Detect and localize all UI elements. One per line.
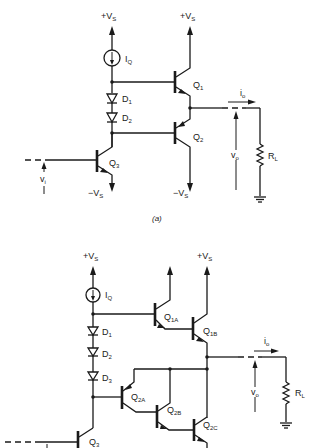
arrow-down-icon <box>109 183 115 192</box>
wire <box>176 34 190 77</box>
arrow-down-icon <box>110 60 114 65</box>
arrow-up-icon <box>253 360 258 368</box>
label-q2c: Q2C <box>203 420 218 431</box>
arrow-right-icon <box>248 100 256 105</box>
label-d2: D2 <box>102 349 113 360</box>
label-q1b: Q1B <box>203 326 217 337</box>
label-vo: vo <box>231 150 240 161</box>
caption-a: (a) <box>152 214 162 223</box>
label-vo: vo <box>251 387 260 398</box>
circuit-diagram: +VS IQ D1 D2 +VS Q1 <box>0 0 316 448</box>
label-q1: Q1 <box>193 80 204 91</box>
label-vi: vi <box>40 174 46 185</box>
arrow-right-icon <box>271 349 279 354</box>
ground-icon <box>280 423 292 428</box>
wire <box>123 403 156 412</box>
diode-d3-icon <box>88 372 98 380</box>
label-io: io <box>240 88 246 99</box>
label-q2b: Q2B <box>167 405 181 416</box>
wire <box>156 274 170 309</box>
emitter-arrow-icon <box>178 121 185 127</box>
label-d1: D1 <box>122 94 133 105</box>
wire <box>194 274 207 323</box>
resistor-rl-icon <box>257 144 263 166</box>
arrow-up-icon <box>90 266 96 275</box>
ground-icon <box>254 197 266 202</box>
label-rl: RL <box>295 388 306 399</box>
diode-d1-icon <box>88 327 98 335</box>
wire <box>176 138 190 184</box>
label-current-source: IQ <box>105 290 113 301</box>
arrow-up-icon <box>109 26 115 35</box>
label-supply-pos-right: +VS <box>180 11 195 22</box>
arrow-down-icon <box>187 183 193 192</box>
label-q3: Q3 <box>109 158 120 169</box>
label-supply-pos-left: +VS <box>101 11 116 22</box>
label-q3: Q3 <box>89 437 100 448</box>
label-d1: D1 <box>102 327 113 338</box>
wire <box>79 428 93 437</box>
wire <box>176 87 190 108</box>
label-d3: D3 <box>102 373 113 384</box>
arrow-up-icon <box>204 266 210 275</box>
label-q2a: Q2A <box>131 392 145 403</box>
label-d2: D2 <box>122 113 133 124</box>
subfigure-b: +VS IQ D1 D2 D3 Q1A <box>5 251 306 448</box>
label-supply-neg-left: −VS <box>88 188 103 199</box>
label-supply-pos-right: +VS <box>197 251 212 262</box>
label-io: io <box>264 336 270 347</box>
diode-d2-icon <box>107 113 117 122</box>
wire <box>98 166 112 184</box>
label-supply-neg-right: −VS <box>173 188 188 199</box>
arrow-down-icon <box>91 296 95 301</box>
wire <box>194 334 207 418</box>
label-q1a: Q1A <box>164 312 178 323</box>
label-q2: Q2 <box>193 132 204 143</box>
label-supply-pos-left: +VS <box>83 251 98 262</box>
arrow-up-icon <box>167 266 173 275</box>
label-rl: RL <box>268 151 279 162</box>
diode-d1-icon <box>107 94 117 103</box>
arrow-up-icon <box>42 162 47 169</box>
arrow-up-icon <box>234 111 239 119</box>
subfigure-a: +VS IQ D1 D2 +VS Q1 <box>25 11 279 223</box>
label-current-source: IQ <box>125 54 133 65</box>
diode-d2-icon <box>88 348 98 356</box>
resistor-rl-icon <box>283 382 289 404</box>
arrow-up-icon <box>187 26 193 35</box>
wire <box>98 133 112 156</box>
